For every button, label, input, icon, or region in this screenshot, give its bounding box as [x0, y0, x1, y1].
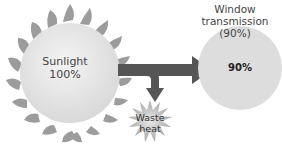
window-label-line2: transmission [186, 15, 282, 27]
sunlight-label: Sunlight 100% [20, 56, 110, 81]
window-label-line1: Window [186, 3, 282, 15]
transmission-arrow-icon [118, 56, 212, 84]
waste-heat-line2: heat [130, 124, 170, 135]
sunlight-label-line1: Sunlight [20, 56, 110, 69]
waste-heat-label: Waste heat [130, 113, 170, 135]
sunlight-transmission-diagram: Sunlight 100% Window transmission (90%) … [0, 0, 282, 148]
window-transmission-label: Window transmission (90%) [186, 3, 282, 39]
window-label-line3: (90%) [186, 27, 282, 39]
sunlight-label-line2: 100% [20, 69, 110, 82]
result-percentage-label: 90% [210, 62, 270, 74]
